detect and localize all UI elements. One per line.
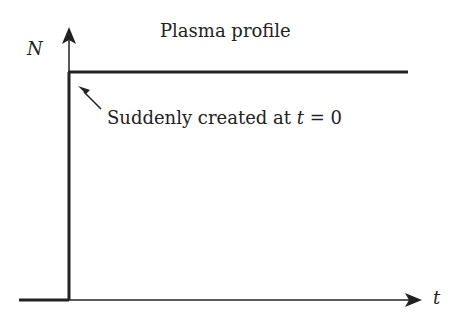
plasma-profile-diagram: Plasma profile N t Suddenly created at t… <box>0 0 463 322</box>
annotation-arrow-shaft <box>84 92 101 109</box>
y-axis-label: N <box>27 38 43 59</box>
annotation-variable: t <box>297 107 304 128</box>
annotation-text: Suddenly created at t = 0 <box>107 107 342 128</box>
diagram-title: Plasma profile <box>160 20 291 41</box>
annotation-prefix: Suddenly created at <box>107 107 297 128</box>
annotation-suffix: = 0 <box>304 107 342 128</box>
diagram-lines <box>0 0 463 322</box>
x-axis-label: t <box>433 287 440 308</box>
